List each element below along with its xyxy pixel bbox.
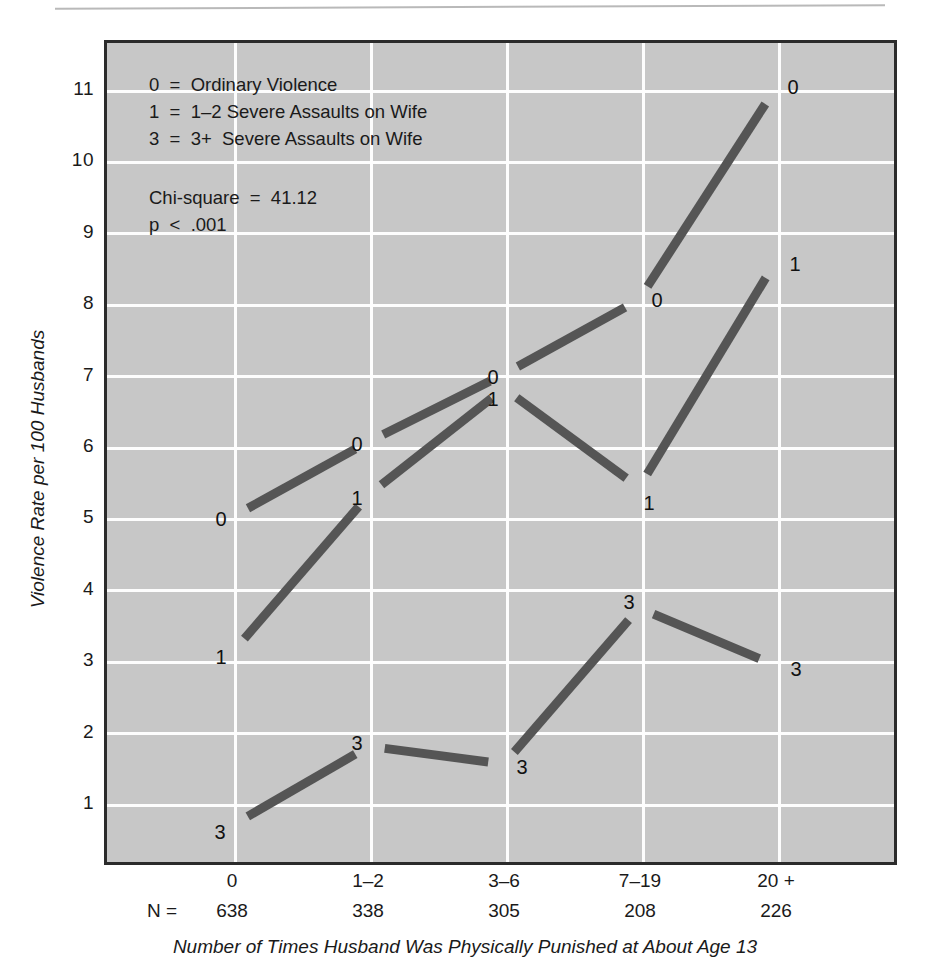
plot-area: 0 = Ordinary Violence 1 = 1–2 Severe Ass…	[104, 40, 897, 865]
series-3-segment-3	[654, 614, 760, 658]
x-tick-category-0: 0	[216, 870, 248, 891]
point-label-series-1-cat-2: 1	[487, 389, 498, 409]
x-tick-2: 3–6305	[488, 870, 520, 921]
y-tick-2: 2	[54, 722, 94, 741]
y-tick-11: 11	[54, 79, 94, 98]
y-tick-5: 5	[54, 507, 94, 526]
y-tick-1: 1	[54, 793, 94, 812]
point-label-series-1-cat-3: 1	[643, 493, 654, 513]
x-tick-1: 1–2338	[352, 870, 384, 921]
y-tick-10: 10	[54, 150, 94, 169]
series-0-segment-2	[518, 307, 625, 366]
series-3-segment-2	[514, 620, 628, 752]
y-tick-7: 7	[54, 365, 94, 384]
point-label-series-1-cat-1: 1	[351, 488, 362, 508]
x-tick-category-3: 7–19	[619, 870, 661, 891]
point-label-series-0-cat-3: 0	[651, 290, 662, 310]
series-lines	[107, 43, 894, 862]
x-tick-group-size-2: 305	[488, 900, 520, 921]
x-tick-group-size-0: 638	[216, 900, 248, 921]
y-axis-tick-labels: 1110987654321	[42, 40, 94, 865]
x-tick-group-size-1: 338	[352, 900, 384, 921]
point-label-series-1-cat-0: 1	[215, 647, 226, 667]
series-0-segment-0	[248, 449, 355, 508]
y-tick-8: 8	[54, 293, 94, 312]
x-tick-category-4: 20 +	[757, 870, 795, 891]
x-tick-category-2: 3–6	[488, 870, 520, 891]
series-3-segment-1	[385, 748, 488, 762]
x-axis-tick-labels: N = 06381–23383–63057–1920820 +226	[104, 870, 897, 940]
point-label-series-3-cat-1: 3	[351, 733, 362, 753]
y-tick-4: 4	[54, 579, 94, 598]
y-tick-6: 6	[54, 436, 94, 455]
series-1-segment-2	[517, 398, 626, 478]
y-tick-3: 3	[54, 650, 94, 669]
x-tick-4: 20 +226	[757, 870, 795, 921]
x-tick-0: 0638	[216, 870, 248, 921]
n-prefix-label: N =	[147, 900, 177, 921]
point-label-series-3-cat-0: 3	[214, 822, 225, 842]
y-tick-9: 9	[54, 222, 94, 241]
point-label-series-3-cat-2: 3	[516, 757, 527, 777]
point-label-series-1-cat-4: 1	[789, 254, 800, 274]
x-tick-category-1: 1–2	[352, 870, 384, 891]
series-3-segment-0	[248, 754, 355, 816]
point-label-series-0-cat-0: 0	[215, 509, 226, 529]
point-label-series-0-cat-1: 0	[351, 434, 362, 454]
series-0-segment-3	[648, 104, 766, 286]
x-tick-group-size-3: 208	[619, 900, 661, 921]
page-top-rule	[55, 4, 885, 10]
x-axis-title: Number of Times Husband Was Physically P…	[0, 936, 930, 958]
point-label-series-3-cat-4: 3	[790, 659, 801, 679]
series-1-segment-3	[647, 278, 766, 474]
x-tick-3: 7–19208	[619, 870, 661, 921]
point-label-series-0-cat-2: 0	[487, 367, 498, 387]
point-label-series-0-cat-4: 0	[787, 77, 798, 97]
point-label-series-3-cat-3: 3	[623, 592, 634, 612]
series-1-segment-0	[244, 507, 358, 639]
x-tick-group-size-4: 226	[757, 900, 795, 921]
